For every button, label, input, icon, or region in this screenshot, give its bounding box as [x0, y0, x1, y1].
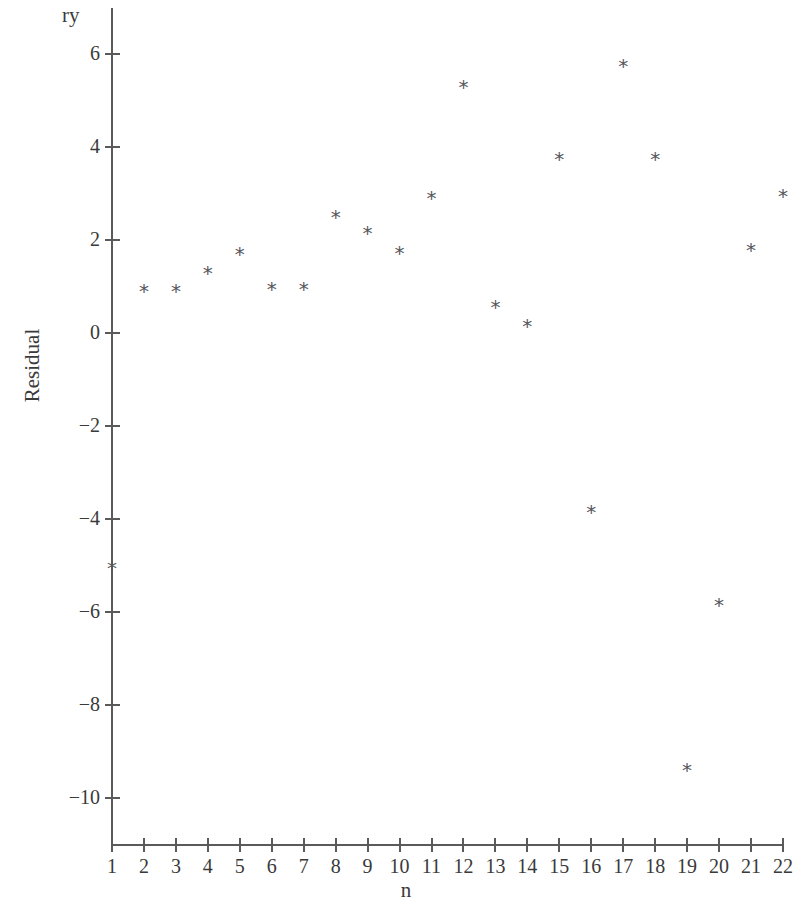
data-point: * — [391, 244, 409, 262]
y-axis-top-label: ry — [62, 4, 80, 26]
y-tick-label: −2 — [40, 415, 100, 435]
y-tick — [105, 146, 120, 148]
data-point: * — [103, 559, 121, 577]
x-axis-line — [111, 844, 784, 846]
data-point: * — [423, 189, 441, 207]
y-tick — [105, 425, 120, 427]
data-point: * — [582, 503, 600, 521]
x-tick — [782, 838, 784, 852]
x-tick — [622, 838, 624, 852]
x-tick — [335, 838, 337, 852]
x-tick — [654, 838, 656, 852]
y-tick-label: 2 — [40, 229, 100, 249]
x-tick — [175, 838, 177, 852]
x-tick — [143, 838, 145, 852]
y-axis-line — [111, 8, 113, 846]
data-point: * — [550, 150, 568, 168]
x-tick — [590, 838, 592, 852]
data-point: * — [135, 282, 153, 300]
x-tick — [239, 838, 241, 852]
data-point: * — [295, 280, 313, 298]
y-tick-label: −10 — [40, 787, 100, 807]
data-point: * — [678, 761, 696, 779]
data-point: * — [199, 264, 217, 282]
y-tick — [105, 704, 120, 706]
x-tick-label: 22 — [763, 855, 803, 877]
y-tick-label: −8 — [40, 694, 100, 714]
y-tick-label: 4 — [40, 136, 100, 156]
data-point: * — [486, 298, 504, 316]
y-tick-label: −6 — [40, 601, 100, 621]
x-tick — [431, 838, 433, 852]
x-tick — [399, 838, 401, 852]
x-tick — [462, 838, 464, 852]
data-point: * — [231, 245, 249, 263]
x-tick — [271, 838, 273, 852]
data-point: * — [742, 241, 760, 259]
y-tick-label: 0 — [40, 322, 100, 342]
data-point: * — [167, 282, 185, 300]
y-tick — [105, 518, 120, 520]
x-tick — [303, 838, 305, 852]
y-tick — [105, 611, 120, 613]
x-tick — [526, 838, 528, 852]
y-tick-label: 6 — [40, 43, 100, 63]
y-tick — [105, 53, 120, 55]
x-tick — [207, 838, 209, 852]
data-point: * — [518, 317, 536, 335]
data-point: * — [454, 78, 472, 96]
y-tick — [105, 797, 120, 799]
data-point: * — [774, 187, 792, 205]
x-tick — [494, 838, 496, 852]
data-point: * — [359, 224, 377, 242]
y-tick — [105, 239, 120, 241]
y-tick-label: −4 — [40, 508, 100, 528]
data-point: * — [646, 150, 664, 168]
x-tick — [558, 838, 560, 852]
x-tick — [686, 838, 688, 852]
data-point: * — [710, 596, 728, 614]
x-axis-title: n — [401, 879, 412, 901]
x-tick — [718, 838, 720, 852]
data-point: * — [327, 208, 345, 226]
data-point: * — [614, 57, 632, 75]
data-point: * — [263, 280, 281, 298]
x-tick — [111, 838, 113, 852]
x-tick — [750, 838, 752, 852]
y-tick — [105, 332, 120, 334]
x-tick — [367, 838, 369, 852]
